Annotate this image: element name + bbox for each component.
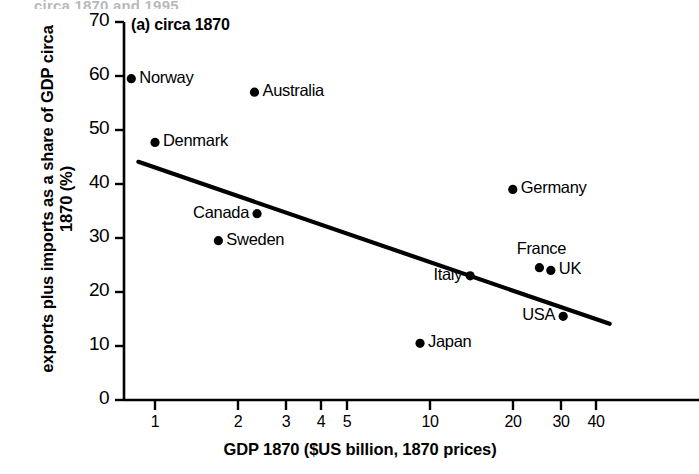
data-point — [127, 74, 136, 83]
data-point — [535, 263, 544, 272]
data-point — [150, 138, 159, 147]
y-tick-label: 70 — [67, 9, 109, 31]
data-point-label: Japan — [428, 332, 471, 351]
data-point — [250, 88, 259, 97]
x-tick-label: 40 — [579, 413, 613, 431]
data-point-label: France — [517, 239, 567, 258]
y-tick-label: 50 — [67, 117, 109, 139]
data-point — [508, 185, 517, 194]
x-axis-label: GDP 1870 ($US billion, 1870 prices) — [150, 440, 570, 459]
x-tick-label: 3 — [269, 413, 303, 431]
x-tick-label: 2 — [221, 413, 255, 431]
data-point-label: Sweden — [226, 230, 284, 249]
data-point — [559, 312, 568, 321]
cropped-caption-sliver: circa 1870 and 1995 — [34, 0, 334, 9]
panel-title: (a) circa 1870 — [131, 16, 230, 34]
chart-figure: circa 1870 and 1995 exports plus imports… — [0, 0, 699, 474]
y-tick-label: 0 — [67, 387, 109, 409]
y-tick-label: 10 — [67, 333, 109, 355]
data-point-label: Australia — [262, 81, 324, 100]
y-tick-label: 30 — [67, 225, 109, 247]
x-tick-label: 10 — [413, 413, 447, 431]
data-point — [214, 236, 223, 245]
data-point-label: Italy — [433, 265, 462, 284]
x-tick-label: 5 — [330, 413, 364, 431]
y-tick-label: 20 — [67, 279, 109, 301]
y-tick-label: 60 — [67, 63, 109, 85]
data-point-label: Denmark — [163, 131, 228, 150]
y-tick-label: 40 — [67, 171, 109, 193]
data-point — [546, 266, 555, 275]
data-point-label: Germany — [521, 178, 587, 197]
data-point — [252, 209, 261, 218]
data-point-label: UK — [559, 259, 581, 278]
data-point — [466, 271, 475, 280]
data-point-label: USA — [522, 305, 555, 324]
x-tick-label: 1 — [138, 413, 172, 431]
x-tick-label: 20 — [496, 413, 530, 431]
data-point-label: Canada — [193, 203, 249, 222]
data-point — [415, 339, 424, 348]
data-point-label: Norway — [139, 68, 193, 87]
x-tick-label: 30 — [544, 413, 578, 431]
